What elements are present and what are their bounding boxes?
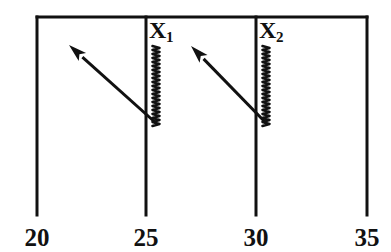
diagram-canvas: X 1 X 2 20 25 30 35 xyxy=(0,0,391,252)
diagram-figure: X 1 X 2 20 25 30 35 xyxy=(0,0,391,252)
axis-tick-label-35: 35 xyxy=(355,224,380,251)
coil-label-x2: X xyxy=(259,17,277,43)
axis-tick-label-20: 20 xyxy=(25,224,50,251)
axis-tick-label-25: 25 xyxy=(134,224,159,251)
arrow-group xyxy=(69,45,267,124)
coil-labels-group: X 1 X 2 xyxy=(149,17,284,45)
structure-group xyxy=(37,17,367,215)
coil-spring-x1 xyxy=(153,46,160,126)
axis-tick-labels-group: 20 25 30 35 xyxy=(25,224,380,251)
coil-label-x1-subscript: 1 xyxy=(166,29,174,45)
coil-label-x2-subscript: 2 xyxy=(276,29,284,45)
axis-tick-label-30: 30 xyxy=(244,224,269,251)
coil-spring-x2 xyxy=(263,46,270,126)
coil-label-x1: X xyxy=(149,17,167,43)
coil-group xyxy=(153,46,270,126)
